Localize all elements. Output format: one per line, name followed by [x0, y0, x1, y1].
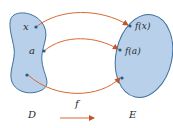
label-x: x: [23, 21, 29, 32]
label-fx: f(x): [134, 21, 151, 31]
point-fa: [118, 48, 121, 51]
label-function-f: f: [74, 98, 81, 109]
label-domain-d: D: [27, 109, 36, 120]
arrow-a-to-fa: [44, 39, 118, 51]
point-fx: [128, 24, 131, 27]
point-image-3: [120, 76, 123, 79]
label-fa: f(a): [124, 46, 141, 56]
point-3: [25, 73, 28, 76]
label-codomain-e: E: [128, 109, 137, 120]
point-x: [34, 25, 37, 28]
point-a: [42, 49, 45, 52]
function-mapping-diagram: x a f(x) f(a) D E f: [0, 0, 173, 128]
label-a: a: [29, 45, 35, 56]
arrow-x-to-fx: [36, 12, 128, 27]
